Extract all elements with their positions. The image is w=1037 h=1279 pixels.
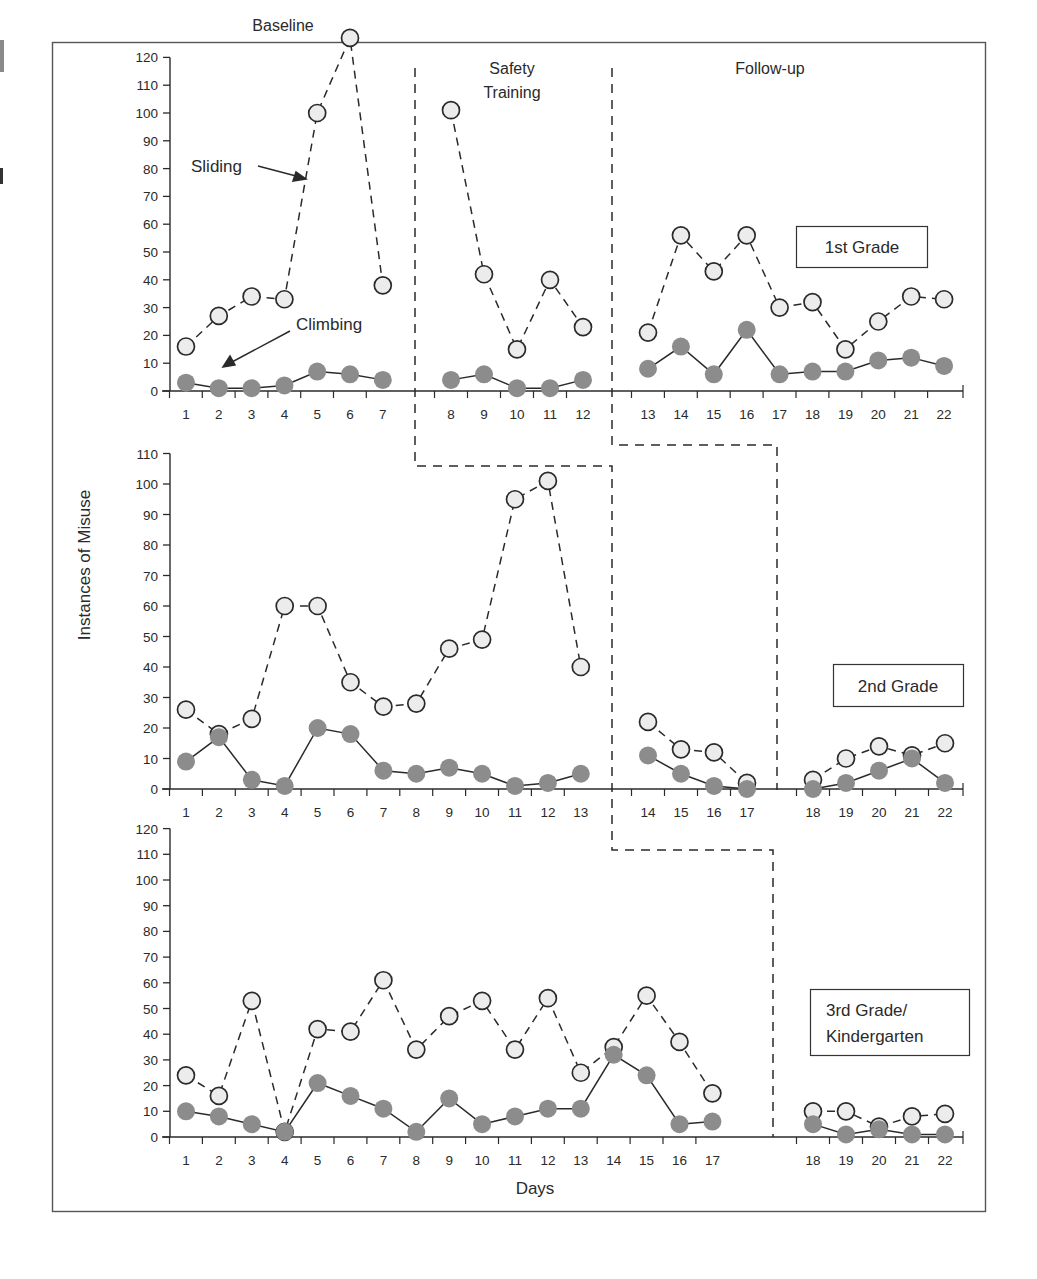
data-point-climbing <box>903 750 921 768</box>
y-tick-label: 60 <box>143 976 158 991</box>
data-point-sliding <box>178 701 195 718</box>
data-point-sliding <box>309 598 326 615</box>
x-tick-label: 5 <box>313 407 321 422</box>
y-tick-label: 110 <box>136 447 158 462</box>
data-point-sliding <box>408 695 425 712</box>
series-sliding <box>178 472 954 791</box>
data-point-climbing <box>342 1087 360 1105</box>
data-point-sliding <box>243 710 260 727</box>
phase-label-safety-line2: Training <box>483 84 540 101</box>
x-tick-label: 7 <box>380 805 388 820</box>
data-point-sliding <box>640 713 657 730</box>
data-point-climbing <box>177 374 195 392</box>
data-point-sliding <box>441 640 458 657</box>
x-tick-label: 18 <box>805 805 820 820</box>
y-tick-label: 70 <box>143 950 158 965</box>
y-tick-label: 20 <box>143 721 158 736</box>
x-tick-label: 11 <box>508 805 522 820</box>
data-point-climbing <box>672 765 690 783</box>
y-tick-label: 60 <box>143 217 158 232</box>
series-line <box>451 110 583 349</box>
x-tick-label: 8 <box>447 407 455 422</box>
x-tick-label: 17 <box>705 1153 720 1168</box>
data-point-climbing <box>374 762 392 780</box>
phase-line-training-to-followup <box>612 68 777 790</box>
data-point-sliding <box>476 266 493 283</box>
x-tick-label: 2 <box>215 407 223 422</box>
x-tick-label: 2 <box>215 805 223 820</box>
data-point-sliding <box>704 1085 721 1102</box>
y-tick-label: 90 <box>143 508 158 523</box>
annotation-sliding: Sliding <box>191 157 242 176</box>
x-tick-label: 3 <box>248 805 256 820</box>
data-point-sliding <box>705 263 722 280</box>
data-point-sliding <box>443 102 460 119</box>
x-tick-label: 16 <box>706 805 721 820</box>
data-point-sliding <box>937 1105 954 1122</box>
y-tick-label: 120 <box>135 822 158 837</box>
data-point-sliding <box>539 990 556 1007</box>
x-tick-label: 20 <box>871 407 886 422</box>
x-tick-label: 18 <box>805 407 820 422</box>
series-line <box>648 755 747 789</box>
y-tick-label: 10 <box>143 752 158 767</box>
data-point-sliding <box>904 1108 921 1125</box>
data-point-sliding <box>572 1064 589 1081</box>
data-point-sliding <box>542 271 559 288</box>
data-point-climbing <box>574 371 592 389</box>
x-tick-label: 10 <box>475 1153 490 1168</box>
x-tick-label: 22 <box>937 407 952 422</box>
data-point-sliding <box>342 29 359 46</box>
data-point-climbing <box>639 360 657 378</box>
data-point-climbing <box>870 1120 888 1138</box>
data-point-climbing <box>869 351 887 369</box>
data-point-climbing <box>837 1125 855 1143</box>
series-line <box>648 722 747 783</box>
data-point-sliding <box>575 319 592 336</box>
y-tick-label: 50 <box>143 245 158 260</box>
data-point-climbing <box>572 1100 590 1118</box>
panel3-label-line2: Kindergarten <box>826 1027 923 1046</box>
data-point-climbing <box>539 1100 557 1118</box>
data-point-sliding <box>441 1008 458 1025</box>
y-tick-label: 40 <box>143 660 158 675</box>
x-tick-label: 8 <box>413 805 421 820</box>
data-point-climbing <box>309 1074 327 1092</box>
data-point-climbing <box>539 774 557 792</box>
panel1-label: 1st Grade <box>825 238 900 257</box>
series-line <box>186 980 712 1132</box>
data-point-climbing <box>177 753 195 771</box>
data-point-sliding <box>210 307 227 324</box>
x-tick-label: 12 <box>540 805 555 820</box>
y-tick-label: 0 <box>150 384 158 399</box>
phase-label-followup: Follow-up <box>735 60 804 77</box>
data-point-sliding <box>507 1041 524 1058</box>
data-point-climbing <box>738 780 756 798</box>
arrow-climbing <box>223 331 290 367</box>
x-tick-label: 15 <box>639 1153 654 1168</box>
x-tick-label: 17 <box>772 407 787 422</box>
data-point-sliding <box>243 992 260 1009</box>
x-tick-label: 21 <box>904 805 919 820</box>
y-tick-label: 0 <box>150 782 158 797</box>
x-tick-label: 1 <box>182 407 190 422</box>
annotation-climbing: Climbing <box>296 315 362 334</box>
data-point-climbing <box>639 746 657 764</box>
y-tick-label: 40 <box>143 1027 158 1042</box>
data-point-sliding <box>837 341 854 358</box>
data-point-climbing <box>275 376 293 394</box>
y-tick-label: 90 <box>143 899 158 914</box>
x-tick-label: 22 <box>937 805 952 820</box>
data-point-sliding <box>507 491 524 508</box>
y-tick-label: 90 <box>143 134 158 149</box>
data-point-climbing <box>308 363 326 381</box>
series-line <box>648 330 944 374</box>
data-point-sliding <box>374 277 391 294</box>
x-tick-label: 3 <box>248 407 256 422</box>
data-point-climbing <box>210 379 228 397</box>
data-point-sliding <box>509 341 526 358</box>
data-point-sliding <box>276 291 293 308</box>
data-point-climbing <box>903 1125 921 1143</box>
y-tick-label: 30 <box>143 1053 158 1068</box>
x-tick-label: 19 <box>838 805 853 820</box>
